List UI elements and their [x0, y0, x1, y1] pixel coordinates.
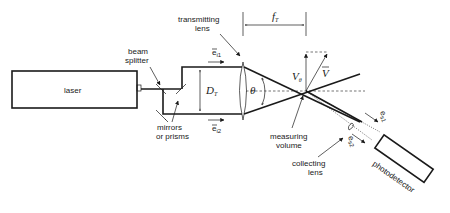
laser-label: laser — [64, 86, 82, 95]
velocity-vector-symbol: V — [322, 67, 330, 79]
angle-arc — [262, 78, 265, 105]
scattered-2-symbol: es2 — [346, 135, 359, 149]
collecting-lens-leader — [318, 138, 343, 157]
incident-2-symbol: ei2 — [212, 124, 222, 134]
transmitting-lens-label-1: transmitting — [178, 15, 219, 24]
mirrors-leader-upper — [172, 101, 178, 122]
figure-caption-cropped: ▄▄▄▄ ▄▄▄▄▄ ▄▄▄▄▄▄▄▄▄▄ — [10, 209, 160, 213]
measuring-volume-label-2: volume — [276, 141, 302, 150]
angle-symbol: θ — [250, 84, 256, 96]
beam-splitter-leader — [150, 67, 160, 85]
scattered-direction-1-arrow — [365, 113, 378, 122]
transmitting-lens — [240, 62, 247, 120]
photodetector-label: photodetector — [371, 159, 417, 195]
collecting-lens-label-2: lens — [308, 168, 323, 177]
focal-length-symbol: fT — [272, 10, 279, 23]
mirrors-leader-lower — [165, 119, 168, 122]
collection-cone-lower — [306, 91, 372, 140]
beam-separation-symbol: DT — [205, 84, 218, 97]
beam-lower-converging — [244, 74, 360, 114]
incident-1-symbol: ei1 — [212, 48, 222, 58]
caption-fragment: ▄▄▄▄ ▄▄▄▄▄ ▄▄▄▄▄▄▄▄▄▄ — [10, 209, 160, 213]
measuring-volume-label-1: measuring — [270, 132, 307, 141]
scattered-1-symbol: es1 — [378, 110, 391, 124]
mirror-lower — [156, 110, 166, 120]
transmitting-lens-label-2: lens — [195, 24, 210, 33]
measuring-volume-leader — [292, 96, 303, 128]
velocity-component-symbol: Vθ — [292, 70, 302, 83]
transmitting-lens-leader — [220, 34, 240, 56]
collecting-lens — [348, 123, 353, 130]
mirrors-label-1: mirrors — [157, 123, 182, 132]
mirrors-label-2: or prisms — [156, 132, 189, 141]
collecting-lens-label-1: collecting — [292, 159, 325, 168]
lower-beam — [163, 89, 242, 114]
beam-splitter-label-1: beam — [128, 47, 148, 56]
laser-box: laser — [12, 71, 141, 108]
beam-splitter-label-2: splitter — [125, 56, 149, 65]
lda-diagram: laser DT θ fT Vθ V photodetector — [0, 0, 450, 213]
